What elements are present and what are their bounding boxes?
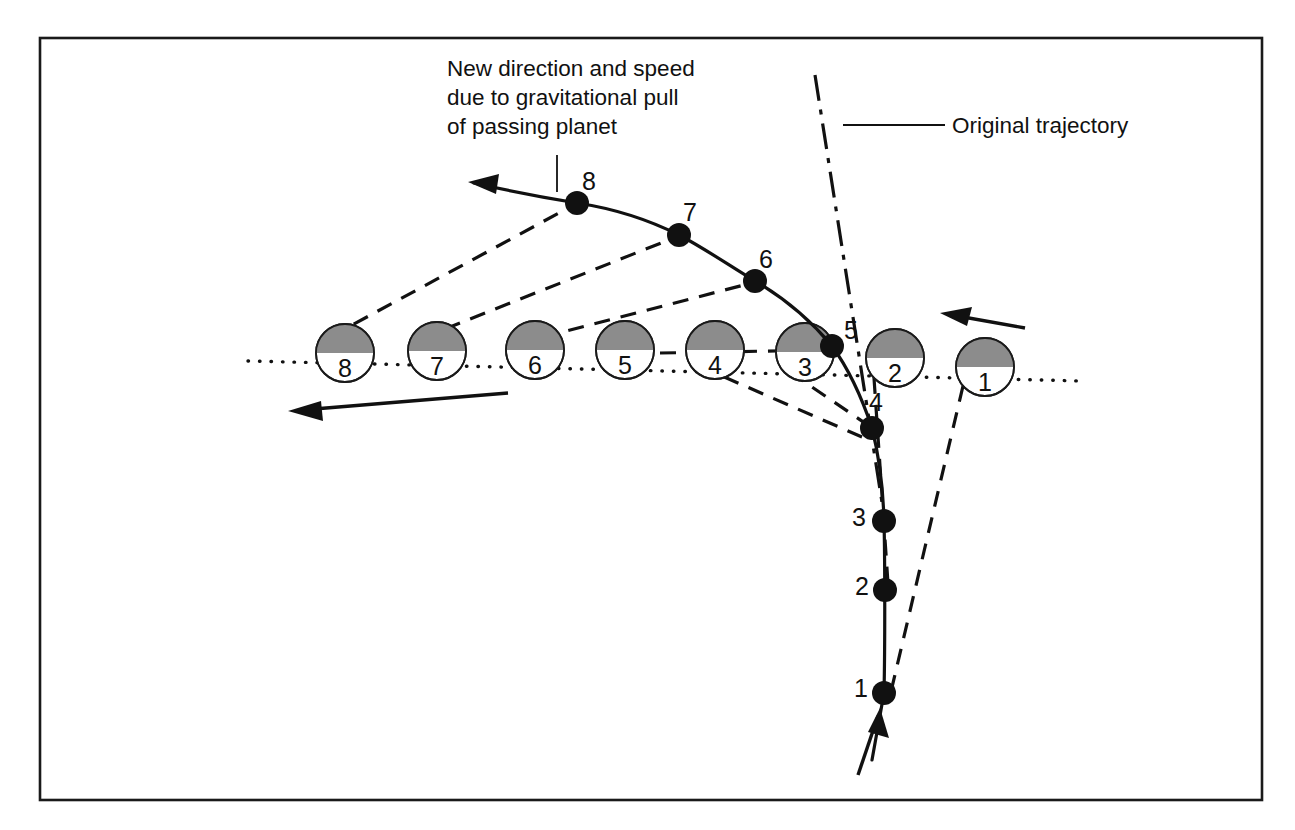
planet-3-label: 3 bbox=[798, 353, 812, 381]
planet-1-label: 1 bbox=[978, 368, 992, 396]
planet-1: 1 bbox=[956, 338, 1014, 396]
new-direction-line-1: New direction and speed bbox=[447, 56, 695, 81]
planet-2-label: 2 bbox=[888, 359, 902, 387]
gravity-assist-diagram: 1 2 3 4 bbox=[0, 0, 1295, 830]
planet-4-label: 4 bbox=[708, 351, 722, 379]
planet-5-label: 5 bbox=[618, 351, 632, 379]
spacecraft-dot-7 bbox=[667, 223, 691, 247]
planet-8: 8 bbox=[316, 324, 374, 382]
planet-7-label: 7 bbox=[430, 352, 444, 380]
figure-frame bbox=[40, 38, 1262, 800]
planet-4: 4 bbox=[686, 321, 744, 379]
spacecraft-label-3: 3 bbox=[852, 503, 866, 531]
spacecraft-label-7: 7 bbox=[683, 198, 697, 226]
spacecraft-label-5: 5 bbox=[844, 316, 858, 344]
planet-2: 2 bbox=[866, 329, 924, 387]
new-direction-line-2: due to gravitational pull bbox=[447, 85, 678, 110]
spacecraft-dot-4 bbox=[860, 416, 884, 440]
spacecraft-dot-1 bbox=[872, 681, 896, 705]
spacecraft-dot-2 bbox=[873, 578, 897, 602]
new-direction-line-3: of passing planet bbox=[447, 114, 618, 139]
spacecraft-dot-5 bbox=[820, 334, 844, 358]
spacecraft-label-4: 4 bbox=[869, 388, 883, 416]
original-trajectory-label: Original trajectory bbox=[952, 113, 1129, 138]
spacecraft-label-6: 6 bbox=[759, 245, 773, 273]
planet-6-label: 6 bbox=[528, 351, 542, 379]
figure-root: 1 2 3 4 bbox=[0, 0, 1295, 830]
planet-8-label: 8 bbox=[338, 354, 352, 382]
spacecraft-label-2: 2 bbox=[855, 572, 869, 600]
planet-5: 5 bbox=[596, 321, 654, 379]
planet-6: 6 bbox=[506, 321, 564, 379]
planet-7: 7 bbox=[408, 322, 466, 380]
spacecraft-label-8: 8 bbox=[582, 167, 596, 195]
spacecraft-label-1: 1 bbox=[854, 674, 868, 702]
spacecraft-dot-3 bbox=[872, 509, 896, 533]
